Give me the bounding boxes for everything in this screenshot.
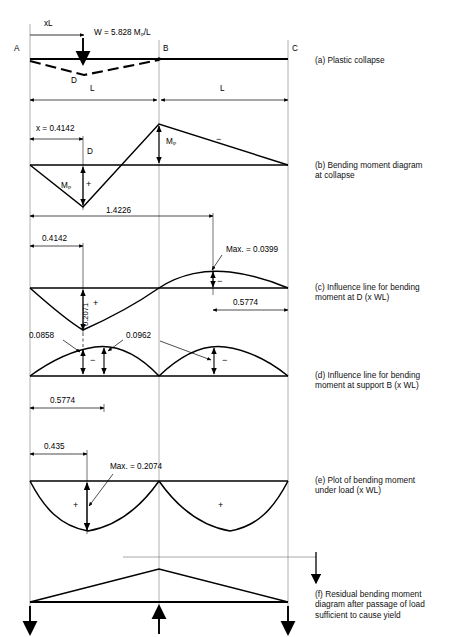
label-0.0858: 0.0858: [29, 331, 54, 340]
label-mp-hogging: Mₚ: [166, 136, 176, 146]
label-node-C: C: [292, 44, 298, 53]
label-0.5774-d: 0.5774: [50, 396, 75, 405]
leader-0.0962-right: [160, 341, 211, 360]
leader-max-0.2074: [89, 474, 113, 506]
panel-f-residual-bmd: [30, 552, 316, 634]
leader-0.0858: [63, 340, 80, 352]
collapse-mechanism-dashed: [30, 60, 159, 75]
label-span-L-left: L: [90, 84, 95, 93]
caption-e: (e) Plot of bending moment under load (x…: [315, 475, 415, 496]
label-node-D: D: [71, 76, 77, 85]
label-node-A: A: [14, 44, 19, 53]
label-max-0.2074: Max. = 0.2074: [110, 462, 162, 471]
caption-d: (d) Influence line for bending moment at…: [315, 370, 420, 391]
sign-positive-e-left: +: [73, 500, 78, 510]
label-max-0.0399: Max. = 0.0399: [226, 245, 278, 254]
label-1.4226: 1.4226: [106, 206, 131, 215]
sign-positive-b: +: [86, 179, 91, 189]
leader-max-0.0399: [212, 255, 222, 270]
bm-curve-e-right: [159, 481, 288, 531]
label-x-0.4142: x = 0.4142: [36, 124, 74, 133]
caption-a: (a) Plastic collapse: [315, 55, 385, 65]
sign-negative-c: −: [217, 276, 222, 286]
sign-positive-e-right: +: [218, 500, 223, 510]
label-load-W: W = 5.828 Mₚ/L: [94, 27, 150, 37]
label-0.4142-c: 0.4142: [42, 234, 67, 243]
label-0.0962: 0.0962: [126, 331, 151, 340]
label-node-D-b: D: [87, 147, 93, 156]
sign-negative-d-right: −: [222, 355, 227, 365]
label-xL: xL: [44, 19, 53, 28]
label-mp-sagging: Mₚ: [61, 180, 71, 190]
caption-b: (b) Bending moment diagram at collapse: [315, 160, 422, 181]
sign-negative-b: −: [216, 134, 221, 144]
caption-c: (c) Influence line for bending moment at…: [315, 282, 420, 303]
label-0.5774-c: 0.5774: [233, 298, 258, 307]
caption-f: (f) Residual bending moment diagram afte…: [315, 589, 425, 620]
sign-negative-d-left: −: [90, 355, 95, 365]
engineering-figure: [0, 0, 475, 637]
label-0.435: 0.435: [44, 442, 65, 451]
sign-positive-c: +: [93, 298, 98, 308]
label-node-B: B: [163, 44, 168, 53]
label-0.2071: 0.2071: [81, 303, 90, 326]
bm-curve-e-left: [30, 481, 159, 531]
label-span-L-right: L: [220, 84, 225, 93]
